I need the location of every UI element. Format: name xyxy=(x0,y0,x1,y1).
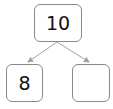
arrow-to-left-part xyxy=(28,42,57,62)
part-box-right-empty[interactable] xyxy=(72,64,110,102)
part-value-left: 8 xyxy=(18,72,30,94)
arrow-to-right-part xyxy=(57,42,89,62)
whole-box: 10 xyxy=(34,4,82,42)
part-box-left: 8 xyxy=(6,64,43,102)
whole-value: 10 xyxy=(46,12,70,34)
